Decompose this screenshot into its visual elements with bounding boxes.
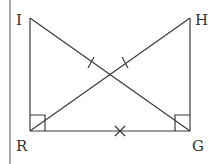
point-label-I: I bbox=[16, 11, 22, 29]
point-label-R: R bbox=[16, 137, 28, 155]
point-label-G: G bbox=[192, 137, 204, 155]
geometry-diagram: I H R G bbox=[0, 0, 214, 164]
right-angle-marker-G bbox=[175, 115, 190, 131]
right-angle-marker-R bbox=[30, 115, 45, 131]
point-label-H: H bbox=[195, 11, 208, 29]
